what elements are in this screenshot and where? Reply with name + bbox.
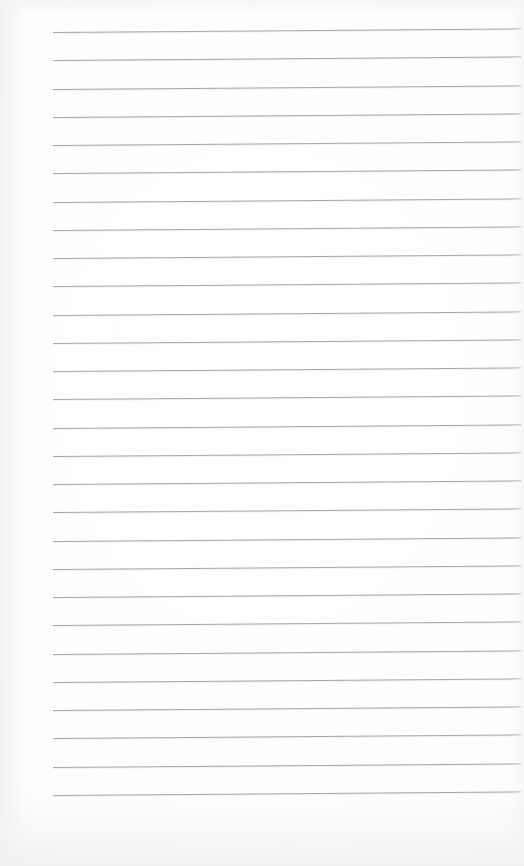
rule-line bbox=[53, 254, 521, 259]
rule-line bbox=[53, 85, 521, 90]
rule-line bbox=[53, 226, 521, 231]
rule-line bbox=[53, 480, 521, 485]
rule-line bbox=[53, 735, 521, 740]
rule-line bbox=[53, 170, 521, 175]
rule-line bbox=[53, 339, 521, 344]
rule-line bbox=[53, 537, 521, 542]
rule-line bbox=[53, 113, 521, 118]
rule-line bbox=[53, 593, 521, 598]
rule-line bbox=[53, 424, 521, 429]
rule-line bbox=[53, 28, 521, 33]
rule-line bbox=[53, 706, 521, 711]
rule-line bbox=[53, 396, 521, 401]
rule-line bbox=[53, 622, 521, 627]
rule-line bbox=[53, 678, 521, 683]
rule-line bbox=[53, 141, 521, 146]
rule-line bbox=[53, 452, 521, 457]
rule-line bbox=[53, 367, 521, 372]
rule-line bbox=[53, 283, 521, 288]
rule-line bbox=[53, 509, 521, 514]
rule-line bbox=[53, 763, 521, 768]
rule-line bbox=[53, 650, 521, 655]
rule-line bbox=[53, 311, 521, 316]
ruled-lines-layer bbox=[0, 0, 524, 866]
rule-line bbox=[53, 791, 521, 796]
rule-line bbox=[53, 198, 521, 203]
rule-line bbox=[53, 565, 521, 570]
notepad-page bbox=[0, 0, 524, 866]
rule-line bbox=[53, 57, 521, 62]
